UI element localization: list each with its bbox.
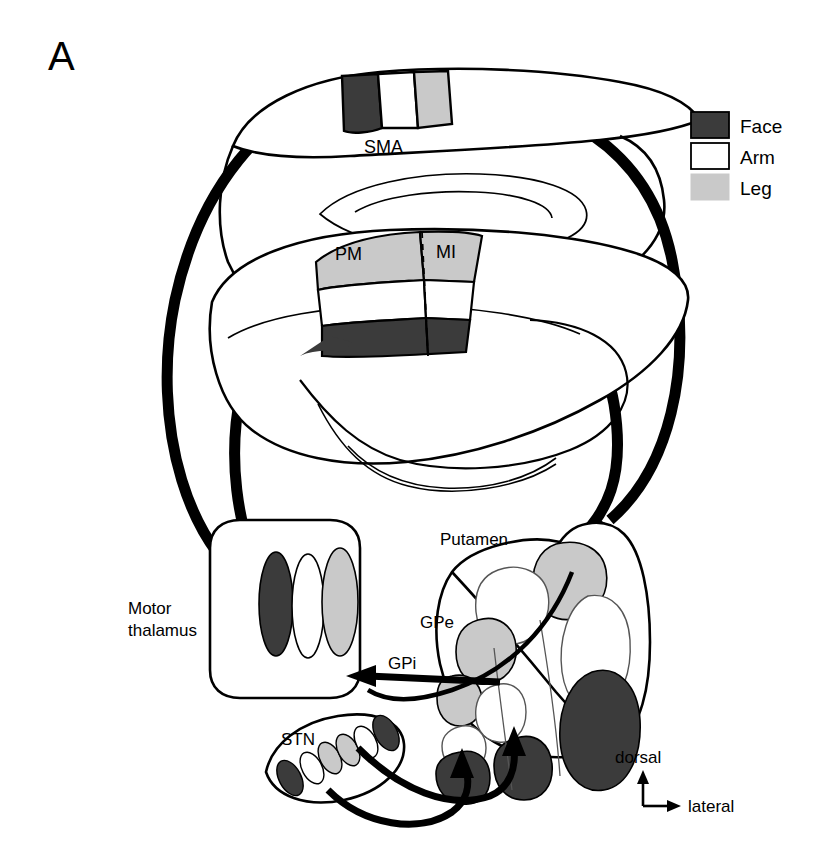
sma-label: SMA	[364, 137, 403, 157]
legend-swatch-face	[691, 112, 729, 138]
legend-swatch-arm	[691, 143, 729, 169]
thalamus-band-arm	[292, 554, 324, 658]
orientation-dorsal-label: dorsal	[615, 748, 661, 767]
gpe-arm	[476, 684, 526, 742]
sma-band-arm	[378, 72, 418, 128]
sma-band-leg	[414, 71, 452, 128]
panel-label: A	[48, 34, 75, 78]
mi-label: MI	[436, 242, 456, 262]
putamen-label: Putamen	[440, 530, 508, 549]
orientation-lateral-label: lateral	[688, 797, 734, 816]
putamen-face	[560, 670, 640, 790]
legend-label-leg: Leg	[740, 178, 772, 199]
mi-band-arm	[424, 280, 474, 320]
thalamus-band-face	[259, 552, 293, 656]
motor-thalamus	[210, 520, 360, 698]
thalamus-label-line2: thalamus	[128, 621, 197, 640]
sma-band-face	[342, 74, 382, 133]
thalamus-label-line1: Motor	[128, 599, 172, 618]
circuit-diagram-canvas: A SMA	[0, 0, 814, 857]
gpe-label: GPe	[420, 613, 454, 632]
sma-somatotopy	[342, 71, 452, 133]
gpi-label: GPi	[388, 654, 416, 673]
stn-label: STN	[281, 730, 315, 749]
pm-label: PM	[335, 244, 362, 264]
mi-band-face	[426, 318, 470, 354]
figure-panel: A SMA	[0, 0, 814, 857]
legend-label-face: Face	[740, 116, 782, 137]
legend-label-arm: Arm	[740, 147, 775, 168]
thalamus-band-leg	[322, 548, 358, 656]
legend-swatch-leg	[691, 174, 729, 200]
